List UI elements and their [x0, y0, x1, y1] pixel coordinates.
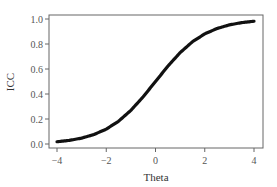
y-tick-label: 0.0 — [31, 139, 44, 150]
icc-chart: 0.00.20.40.60.81.0 −4−2024 Theta ICC — [0, 0, 277, 187]
x-tick-label: −4 — [52, 155, 63, 166]
y-tick-label: 1.0 — [31, 14, 44, 25]
icc-curve — [57, 21, 254, 142]
x-tick-label: 2 — [202, 155, 207, 166]
y-tick-label: 0.8 — [31, 39, 44, 50]
x-tick-label: 4 — [252, 155, 257, 166]
x-tick-label: −2 — [101, 155, 112, 166]
x-axis: −4−2024 — [52, 148, 257, 166]
y-tick-label: 0.6 — [31, 64, 44, 75]
y-axis-label: ICC — [4, 73, 16, 91]
x-axis-label: Theta — [143, 171, 168, 183]
x-tick-label: 0 — [153, 155, 158, 166]
y-tick-label: 0.4 — [31, 89, 44, 100]
y-tick-label: 0.2 — [31, 114, 44, 125]
y-axis: 0.00.20.40.60.81.0 — [31, 14, 50, 150]
